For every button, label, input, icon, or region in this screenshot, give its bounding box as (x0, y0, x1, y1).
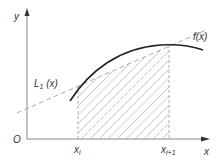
y-axis-arrow-icon (25, 8, 30, 16)
hatch-line (99, 39, 199, 139)
x-axis-arrow-icon (201, 137, 210, 142)
hatch-line (153, 39, 222, 139)
hatch-line (162, 39, 222, 139)
secant-line-L1 (17, 30, 206, 113)
hatched-area (18, 39, 222, 139)
hatch-line (189, 39, 222, 139)
hatch-line (18, 39, 118, 139)
line-label: L1 (x) (34, 78, 58, 90)
hatch-line (117, 39, 217, 139)
hatch-line (45, 39, 145, 139)
xi1-label: xi+1 (160, 144, 176, 156)
y-axis-label: y (13, 11, 20, 22)
hatch-line (171, 39, 222, 139)
hatch-line (81, 39, 181, 139)
hatch-line (36, 39, 136, 139)
trapezoid-diagram: y x O f(x) L1 (x) xi xi+1 (0, 0, 222, 163)
x-axis-label: x (203, 146, 210, 157)
hatch-line (135, 39, 222, 139)
hatch-line (54, 39, 154, 139)
hatch-line (90, 39, 190, 139)
hatch-line (144, 39, 222, 139)
origin-label: O (13, 134, 21, 145)
hatch-line (180, 39, 222, 139)
curve-label: f(x) (193, 31, 207, 42)
xi-label: xi (73, 144, 81, 156)
